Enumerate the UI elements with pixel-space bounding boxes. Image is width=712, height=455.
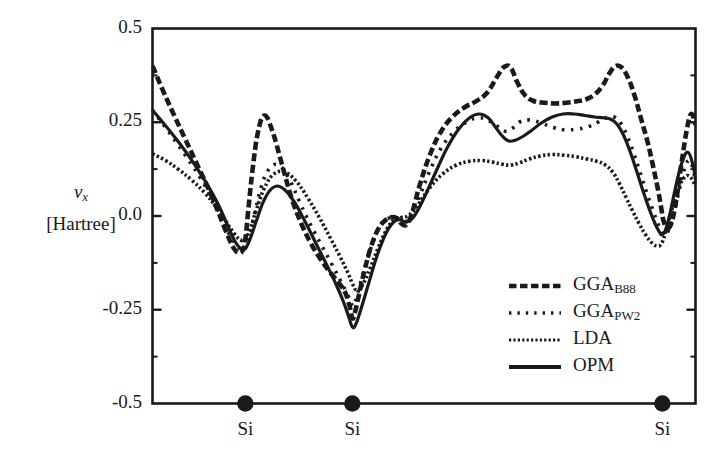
legend-key-solid	[508, 360, 562, 374]
plot-area	[0, 0, 712, 455]
legend-item[interactable]: LDA	[508, 326, 640, 353]
legend-label: GGAPW2	[573, 300, 640, 324]
legend-item[interactable]: GGAB88	[508, 272, 640, 299]
atom-marker	[237, 395, 253, 411]
legend-key-dashed	[508, 279, 562, 293]
atom-marker	[344, 395, 360, 411]
legend-key-dotted-coarse	[508, 306, 562, 320]
legend: GGAB88 GGAPW2 LDA OPM	[508, 272, 640, 380]
legend-item[interactable]: GGAPW2	[508, 299, 640, 326]
legend-label: OPM	[573, 354, 614, 378]
legend-label: GGAB88	[573, 273, 636, 297]
legend-label: LDA	[573, 327, 612, 351]
atom-marker	[654, 395, 670, 411]
legend-item[interactable]: OPM	[508, 353, 640, 380]
figure-panel: vx [Hartree] 0.50.250.0-0.25-0.5 SiSiSi …	[0, 0, 712, 455]
legend-key-dotted-fine	[508, 333, 562, 347]
